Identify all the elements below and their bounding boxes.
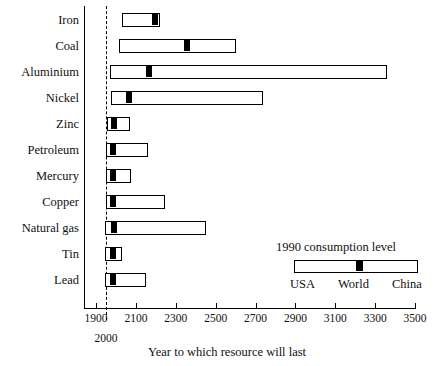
bar-petroleum <box>106 143 148 157</box>
category-label-copper: Copper <box>42 196 79 208</box>
x-tick-label-2500: 2500 <box>196 312 236 324</box>
category-label-iron: Iron <box>58 14 79 26</box>
x-tick-2900 <box>295 303 296 308</box>
reference-line-label: 2000 <box>86 332 126 344</box>
bar-tin <box>105 247 122 261</box>
bar-mercury <box>106 169 131 183</box>
x-tick-2100 <box>136 303 137 308</box>
resource-lifetime-chart: Iron Coal Aluminium Nickel Zinc Petroleu… <box>0 0 436 366</box>
legend-world-marker <box>356 261 363 271</box>
world-marker-tin <box>110 248 116 259</box>
x-axis-title: Year to which resource will last <box>148 345 306 360</box>
category-label-nickel: Nickel <box>46 92 79 104</box>
world-marker-aluminium <box>146 66 152 77</box>
bar-iron <box>122 13 160 27</box>
world-marker-mercury <box>110 170 116 181</box>
world-marker-natural-gas <box>111 222 117 233</box>
x-tick-3100 <box>335 303 336 308</box>
bar-lead <box>105 273 146 287</box>
category-label-natural-gas: Natural gas <box>22 222 79 234</box>
category-label-tin: Tin <box>62 248 79 260</box>
legend-title: 1990 consumption level <box>246 240 426 255</box>
bar-natural-gas <box>105 221 206 235</box>
world-marker-petroleum <box>110 144 116 155</box>
x-tick-3500 <box>415 303 416 308</box>
category-label-lead: Lead <box>54 274 79 286</box>
x-tick-3300 <box>375 303 376 308</box>
x-tick-label-3500: 3500 <box>395 312 435 324</box>
bar-zinc <box>107 117 130 131</box>
x-tick-label-3100: 3100 <box>315 312 355 324</box>
x-tick-2300 <box>176 303 177 308</box>
legend-bar <box>294 260 418 273</box>
x-tick-label-2700: 2700 <box>236 312 276 324</box>
y-axis-line <box>84 6 85 308</box>
x-tick-2700 <box>256 303 257 308</box>
world-marker-coal <box>184 40 190 51</box>
category-label-zinc: Zinc <box>56 118 79 130</box>
legend-label-china: China <box>392 277 422 292</box>
x-tick-label-2300: 2300 <box>156 312 196 324</box>
legend: 1990 consumption level USA World China <box>246 240 426 296</box>
legend-label-world: World <box>338 277 369 292</box>
x-tick-2500 <box>216 303 217 308</box>
x-tick-label-2900: 2900 <box>275 312 315 324</box>
bar-coal <box>119 39 236 53</box>
x-tick-label-2100: 2100 <box>116 312 156 324</box>
x-axis-line <box>84 308 416 309</box>
world-marker-zinc <box>111 118 117 129</box>
category-label-coal: Coal <box>55 40 79 52</box>
bar-nickel <box>111 91 264 105</box>
world-marker-lead <box>110 274 116 285</box>
world-marker-nickel <box>126 92 132 103</box>
world-marker-copper <box>110 196 116 207</box>
category-label-petroleum: Petroleum <box>28 144 79 156</box>
bar-copper <box>106 195 165 209</box>
category-label-mercury: Mercury <box>36 170 79 182</box>
world-marker-iron <box>152 14 158 25</box>
category-label-aluminium: Aluminium <box>21 66 79 78</box>
bar-aluminium <box>110 65 387 79</box>
legend-label-usa: USA <box>290 277 315 292</box>
x-tick-label-1900: 1900 <box>76 312 116 324</box>
x-tick-1900 <box>96 303 97 308</box>
x-tick-label-3300: 3300 <box>355 312 395 324</box>
